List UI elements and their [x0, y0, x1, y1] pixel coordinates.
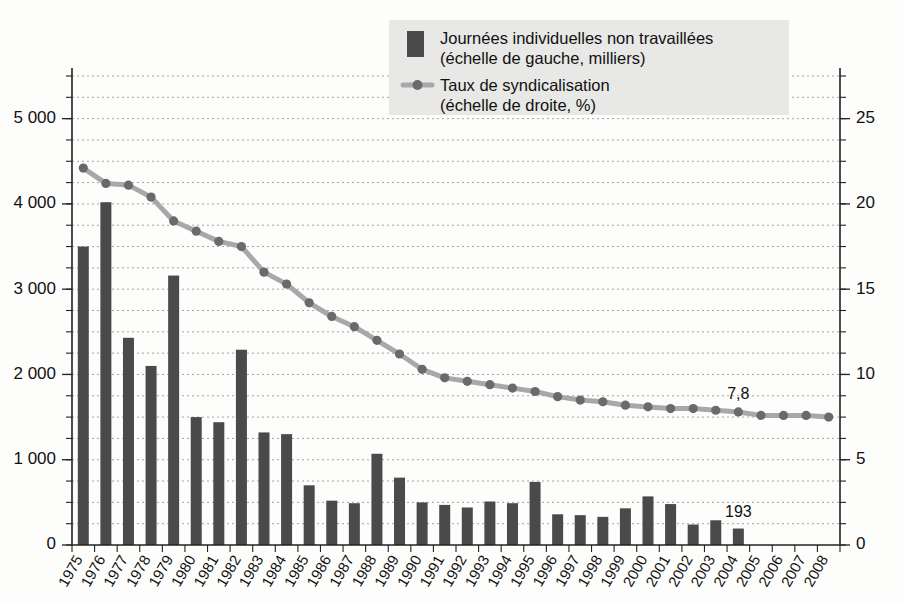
gridlines-group: [72, 76, 840, 524]
annotation-label: 7,8: [727, 385, 749, 402]
bar: [530, 482, 541, 545]
bar: [484, 502, 495, 545]
bar: [643, 496, 654, 545]
x-axis-year-label: 2008: [800, 552, 831, 589]
data-point-marker: [440, 373, 449, 382]
bar-series-journees-individuelles-non-travaillees: [78, 202, 744, 545]
data-point-marker: [282, 279, 291, 288]
line-series-markers: [79, 163, 834, 421]
bar: [191, 417, 202, 545]
right-axis-label: 0: [856, 534, 865, 553]
bar: [733, 529, 744, 545]
bar: [213, 422, 224, 545]
right-axis-label: 10: [856, 364, 875, 383]
data-point-marker: [101, 179, 110, 188]
data-point-marker: [485, 380, 494, 389]
data-point-marker: [643, 402, 652, 411]
bar: [688, 525, 699, 545]
annotation-label: 193: [725, 503, 752, 520]
data-point-marker: [576, 395, 585, 404]
right-axis-minor-ticks: [840, 76, 846, 545]
legend-bar-swatch-icon: [407, 31, 424, 57]
bar: [552, 514, 563, 545]
bar: [259, 432, 270, 545]
data-point-marker: [689, 404, 698, 413]
right-axis-label: 15: [856, 279, 875, 298]
bar: [439, 505, 450, 545]
data-point-marker: [214, 237, 223, 246]
bar: [417, 502, 428, 545]
legend-item-2-line2: (échelle de droite, %): [440, 96, 596, 114]
bar: [597, 517, 608, 545]
bar: [78, 247, 89, 545]
bar: [349, 503, 360, 545]
bar: [146, 366, 157, 545]
bar: [236, 350, 247, 545]
left-axis-label: 3 000: [13, 279, 56, 298]
right-axis-label: 25: [856, 108, 875, 127]
data-point-marker: [530, 387, 539, 396]
legend-dot-marker-icon: [413, 80, 423, 90]
data-annotations: 7,8193: [725, 385, 752, 520]
data-point-marker: [621, 401, 630, 410]
right-axis-label: 5: [856, 449, 865, 468]
bar: [304, 485, 315, 545]
right-axis-label: 20: [856, 193, 875, 212]
bar: [123, 338, 134, 545]
bar: [100, 202, 111, 545]
data-point-marker: [237, 242, 246, 251]
right-axis-tick-labels: 0510152025: [856, 108, 875, 553]
chart-legend: Journées individuelles non travaillées (…: [389, 20, 789, 115]
data-point-marker: [553, 392, 562, 401]
data-point-marker: [124, 181, 133, 190]
data-point-marker: [327, 312, 336, 321]
left-axis-label: 0: [47, 534, 56, 553]
data-point-marker: [508, 383, 517, 392]
bar: [281, 434, 292, 545]
data-point-marker: [824, 412, 833, 421]
data-point-marker: [598, 397, 607, 406]
x-axis-ticks: [72, 545, 840, 552]
bar: [620, 508, 631, 545]
bar: [575, 515, 586, 545]
legend-item-1-line1: Journées individuelles non travaillées: [440, 29, 713, 47]
data-point-marker: [802, 411, 811, 420]
bar: [507, 503, 518, 545]
data-point-marker: [711, 406, 720, 415]
left-axis-minor-ticks: [66, 76, 72, 545]
bar: [462, 507, 473, 545]
bar: [394, 478, 405, 545]
x-axis-tick-labels: 1975197619771978197919801981198219831984…: [54, 552, 831, 589]
data-point-marker: [666, 404, 675, 413]
legend-item-2-line1: Taux de syndicalisation: [440, 76, 610, 94]
data-point-marker: [418, 365, 427, 374]
bar: [665, 504, 676, 545]
data-point-marker: [259, 268, 268, 277]
data-point-marker: [350, 322, 359, 331]
chart-container: 01 0002 0003 0004 0005 000 0510152025 19…: [0, 0, 903, 604]
left-axis-tick-labels: 01 0002 0003 0004 0005 000: [13, 108, 56, 553]
data-point-marker: [192, 227, 201, 236]
data-point-marker: [79, 163, 88, 172]
line-series-taux-de-syndicalisation: [83, 168, 828, 417]
left-axis-label: 2 000: [13, 364, 56, 383]
bar: [371, 454, 382, 545]
left-axis-label: 5 000: [13, 108, 56, 127]
data-point-marker: [305, 298, 314, 307]
bar: [168, 276, 179, 545]
trend-line: [83, 168, 828, 417]
bar: [710, 520, 721, 545]
data-point-marker: [756, 411, 765, 420]
data-point-marker: [463, 377, 472, 386]
left-axis-label: 1 000: [13, 449, 56, 468]
data-point-marker: [395, 349, 404, 358]
legend-item-1-line2: (échelle de gauche, milliers): [440, 49, 645, 67]
data-point-marker: [734, 407, 743, 416]
data-point-marker: [169, 216, 178, 225]
data-point-marker: [779, 411, 788, 420]
data-point-marker: [372, 336, 381, 345]
combo-chart: 01 0002 0003 0004 0005 000 0510152025 19…: [0, 0, 903, 604]
left-axis-label: 4 000: [13, 193, 56, 212]
data-point-marker: [146, 192, 155, 201]
bar: [326, 501, 337, 545]
